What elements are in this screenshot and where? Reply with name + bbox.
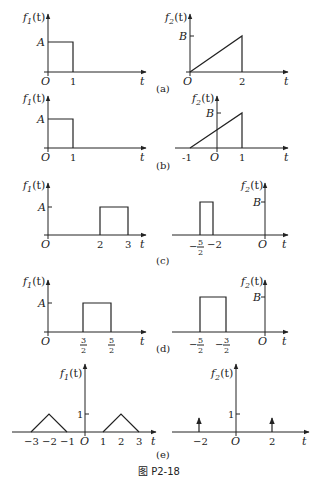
tick-frac-neg-3-2: − 3 2 <box>215 336 230 355</box>
tick-frac-5-2: 5 2 <box>108 336 115 355</box>
panel-c-f2-plot: f2(t) B − 5 2 −2 O t <box>172 179 288 257</box>
figure-p2-18: f1(t) A O 1 t f2(t) B O 2 t (a) f1(t) A … <box>0 0 327 499</box>
rect-pulse <box>200 202 213 235</box>
t-axis-label: t <box>140 238 145 251</box>
svg-text:−: − <box>215 339 223 350</box>
panel-e-f1-plot: f1(t) 1 −3 −2 −1 O 1 2 3 t <box>12 364 156 448</box>
tick-label: −2 <box>207 239 222 250</box>
tick-label: 3 <box>136 436 142 447</box>
f1-label: f1(t) <box>22 92 45 107</box>
f2-label: f2(t) <box>240 275 263 290</box>
triangle-left <box>31 414 67 432</box>
t-axis-label: t <box>151 435 156 448</box>
ramp <box>190 113 242 148</box>
origin-label: O <box>41 335 50 348</box>
amp-label: B <box>178 30 187 43</box>
amp-label: A <box>37 297 46 310</box>
panel-d: f1(t) A O 3 2 5 2 t f2(t) B − 5 <box>22 275 288 355</box>
svg-text:3: 3 <box>81 336 86 345</box>
panel-c: f1(t) A O 2 3 t f2(t) B − 5 2 −2 O t (c) <box>22 179 288 266</box>
tick-label: −2 <box>193 436 208 447</box>
t-axis-label: t <box>284 151 289 164</box>
rect-pulse <box>48 119 73 148</box>
amp-label: 1 <box>228 409 234 420</box>
t-axis-label: t <box>282 238 287 251</box>
svg-text:5: 5 <box>109 336 114 345</box>
tick-label: 2 <box>269 436 275 447</box>
panel-b: f1(t) A O 1 t f2(t) B -1 O 1 t (b) <box>22 92 289 171</box>
origin-label: O <box>258 335 267 348</box>
origin-label: O <box>80 435 89 448</box>
tick-label: 1 <box>239 152 245 163</box>
tick-label: 2 <box>239 76 245 87</box>
rect-pulse <box>48 42 73 72</box>
panel-b-f2-plot: f2(t) B -1 O 1 t <box>175 92 289 164</box>
svg-text:2: 2 <box>81 346 86 355</box>
t-axis-label: t <box>140 75 145 88</box>
ramp <box>190 36 242 72</box>
tick-frac-neg-5-2: − 5 2 <box>189 336 204 355</box>
svg-text:5: 5 <box>198 336 203 345</box>
f2-label: f2(t) <box>240 179 263 194</box>
f1-label: f1(t) <box>22 275 45 290</box>
t-axis-label: t <box>140 151 145 164</box>
tick-label: 1 <box>70 76 76 87</box>
f1-label: f1(t) <box>22 179 45 194</box>
tick-label: 2 <box>118 436 124 447</box>
f2-label: f2(t) <box>164 11 187 26</box>
svg-text:2: 2 <box>224 346 229 355</box>
origin-label: O <box>231 435 240 448</box>
origin-label: O <box>183 75 192 88</box>
f1-label: f1(t) <box>59 367 82 382</box>
t-axis-label: t <box>284 75 289 88</box>
rect-pulse <box>83 303 111 332</box>
panel-a-f2-plot: f2(t) B O 2 t <box>164 11 289 88</box>
amp-label: 1 <box>77 409 83 420</box>
amp-label: B <box>252 291 261 304</box>
rect-pulse <box>100 207 128 235</box>
t-axis-label: t <box>302 435 307 448</box>
svg-text:−: − <box>189 339 197 350</box>
tick-label: −3 <box>24 436 39 447</box>
panel-label: (b) <box>156 160 170 171</box>
svg-text:2: 2 <box>109 346 114 355</box>
panel-d-f1-plot: f1(t) A O 3 2 5 2 t <box>22 275 146 355</box>
panel-d-f2-plot: f2(t) B − 5 2 − 3 2 O t <box>172 275 288 355</box>
tick-label: 1 <box>70 152 76 163</box>
f2-label: f2(t) <box>210 367 233 382</box>
t-axis-label: t <box>140 335 145 348</box>
svg-text:3: 3 <box>224 336 229 345</box>
tick-label: 3 <box>125 239 131 250</box>
amp-label: A <box>36 113 45 126</box>
tick-label: −1 <box>60 436 75 447</box>
rect-pulse <box>200 297 226 332</box>
tick-label: 2 <box>97 239 103 250</box>
origin-label: O <box>41 151 50 164</box>
svg-text:−: − <box>189 241 197 252</box>
origin-label: O <box>41 75 50 88</box>
tick-frac-neg-5-2: − 5 2 <box>189 238 204 257</box>
panel-label: (e) <box>156 449 170 460</box>
panel-label: (d) <box>156 343 170 354</box>
f2-label: f2(t) <box>191 92 214 107</box>
panel-label: (c) <box>156 255 170 266</box>
svg-text:2: 2 <box>198 248 203 257</box>
svg-text:5: 5 <box>198 238 203 247</box>
t-axis-label: t <box>282 335 287 348</box>
f1-label: f1(t) <box>22 11 45 26</box>
svg-text:2: 2 <box>198 346 203 355</box>
panel-label: (a) <box>156 83 170 94</box>
panel-c-f1-plot: f1(t) A O 2 3 t <box>22 179 146 251</box>
amp-label: B <box>205 107 214 120</box>
panel-e-f2-plot: f2(t) 1 −2 O 2 t <box>172 364 309 448</box>
amp-label: A <box>36 36 45 49</box>
panel-e: f1(t) 1 −3 −2 −1 O 1 2 3 t f2(t) 1 −2 O … <box>12 364 309 460</box>
panel-a: f1(t) A O 1 t f2(t) B O 2 t (a) <box>22 11 289 94</box>
tick-label: −2 <box>42 436 57 447</box>
amp-label: B <box>252 196 261 209</box>
triangle-right <box>103 414 139 432</box>
origin-label: O <box>258 238 267 251</box>
panel-a-f1-plot: f1(t) A O 1 t <box>22 11 146 88</box>
tick-label: -1 <box>182 152 192 163</box>
figure-caption: 图 P2-18 <box>138 466 180 477</box>
